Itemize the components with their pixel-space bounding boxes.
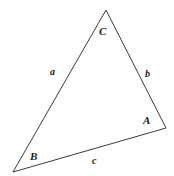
side-label-b: b [145, 69, 150, 79]
triangle-shape [13, 10, 166, 172]
vertex-label-a: A [143, 115, 150, 126]
triangle-figure: C A B a b c [0, 0, 174, 176]
side-label-c: c [92, 156, 96, 166]
triangle-outline-svg [0, 0, 174, 176]
side-label-a: a [50, 67, 55, 77]
vertex-label-c: C [99, 26, 106, 37]
vertex-label-b: B [30, 151, 37, 162]
